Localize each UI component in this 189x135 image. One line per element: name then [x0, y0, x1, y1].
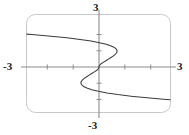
graph-figure: 3 -3 -3 3	[0, 0, 189, 135]
plot-canvas	[0, 0, 189, 135]
y-axis-min-label: -3	[88, 120, 97, 131]
x-axis-min-label: -3	[3, 61, 12, 72]
x-axis-max-label: 3	[177, 61, 183, 72]
y-axis-max-label: 3	[93, 2, 99, 13]
